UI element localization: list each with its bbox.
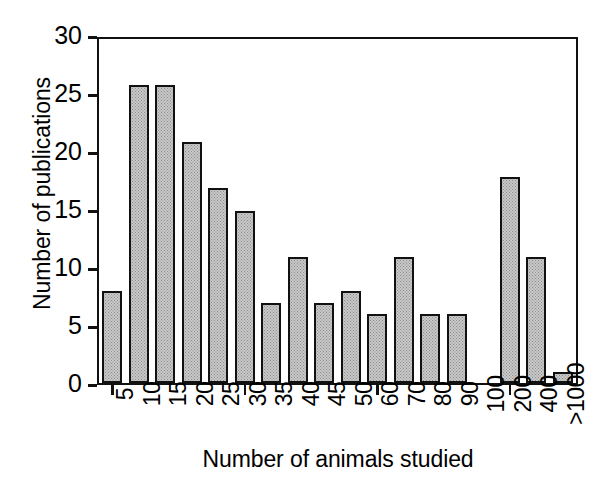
- bar-slot: [391, 39, 418, 383]
- bar-slot: [152, 39, 179, 383]
- bar: [420, 314, 440, 383]
- y-tick-label: 30: [54, 21, 82, 50]
- bar: [102, 291, 122, 383]
- bar-slot: [126, 39, 153, 383]
- bar-slot: [444, 39, 471, 383]
- bar: [367, 314, 387, 383]
- bar: [235, 211, 255, 383]
- y-tick-mark: [88, 326, 97, 329]
- bar: [155, 85, 175, 383]
- y-tick-mark: [88, 94, 97, 97]
- bar: [208, 188, 228, 383]
- y-axis-ticks: 051015202530: [0, 0, 97, 482]
- bar-slot: [497, 39, 524, 383]
- bar-slot: [338, 39, 365, 383]
- bar: [129, 85, 149, 383]
- bar-slot: [364, 39, 391, 383]
- bar-slot: [258, 39, 285, 383]
- bar: [526, 257, 546, 383]
- bar-slot: [232, 39, 259, 383]
- y-tick-label: 15: [54, 195, 82, 224]
- y-tick-label: 0: [68, 369, 82, 398]
- y-tick-label: 25: [54, 79, 82, 108]
- y-tick-label: 5: [68, 311, 82, 340]
- x-axis-title: Number of animals studied: [97, 446, 579, 473]
- bar-slot: [99, 39, 126, 383]
- bar-slot: [417, 39, 444, 383]
- bar: [447, 314, 467, 383]
- bars-container: [99, 39, 576, 383]
- x-tick-label: >1000: [563, 363, 590, 425]
- bar-slot: [205, 39, 232, 383]
- bar-chart: Number of publications 051015202530 5101…: [0, 0, 601, 482]
- bar-slot: [550, 39, 577, 383]
- y-tick-mark: [88, 384, 97, 387]
- bar-slot: [311, 39, 338, 383]
- y-tick-mark: [88, 152, 97, 155]
- bar-slot: [470, 39, 497, 383]
- y-tick-mark: [88, 210, 97, 213]
- bar-slot: [523, 39, 550, 383]
- bar: [182, 142, 202, 383]
- y-tick-label: 10: [54, 253, 82, 282]
- y-tick-label: 20: [54, 137, 82, 166]
- bar: [394, 257, 414, 383]
- y-tick-mark: [88, 268, 97, 271]
- bar: [341, 291, 361, 383]
- bar: [288, 257, 308, 383]
- bar-slot: [285, 39, 312, 383]
- bar: [500, 177, 520, 383]
- bar: [261, 303, 281, 383]
- y-tick-mark: [88, 36, 97, 39]
- bar: [314, 303, 334, 383]
- bar-slot: [179, 39, 206, 383]
